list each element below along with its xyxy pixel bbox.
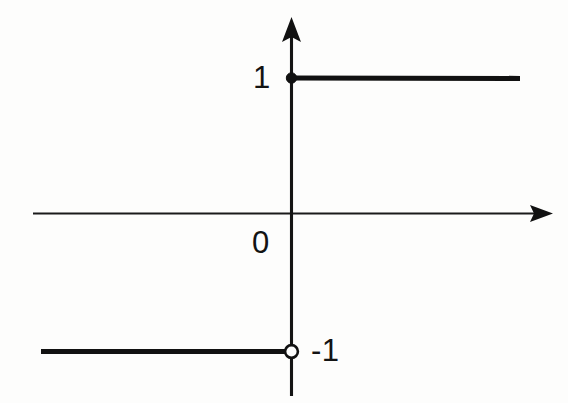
branch-positive-one — [291, 78, 520, 79]
signum-function-figure: 1 0 -1 — [0, 0, 568, 403]
graph-canvas — [0, 0, 568, 403]
closed-endpoint-marker — [286, 73, 296, 83]
y-axis-label-minus-one: -1 — [311, 335, 340, 366]
origin-label-zero: 0 — [252, 227, 270, 258]
y-axis-label-one: 1 — [253, 62, 271, 93]
open-endpoint-marker — [285, 345, 298, 358]
